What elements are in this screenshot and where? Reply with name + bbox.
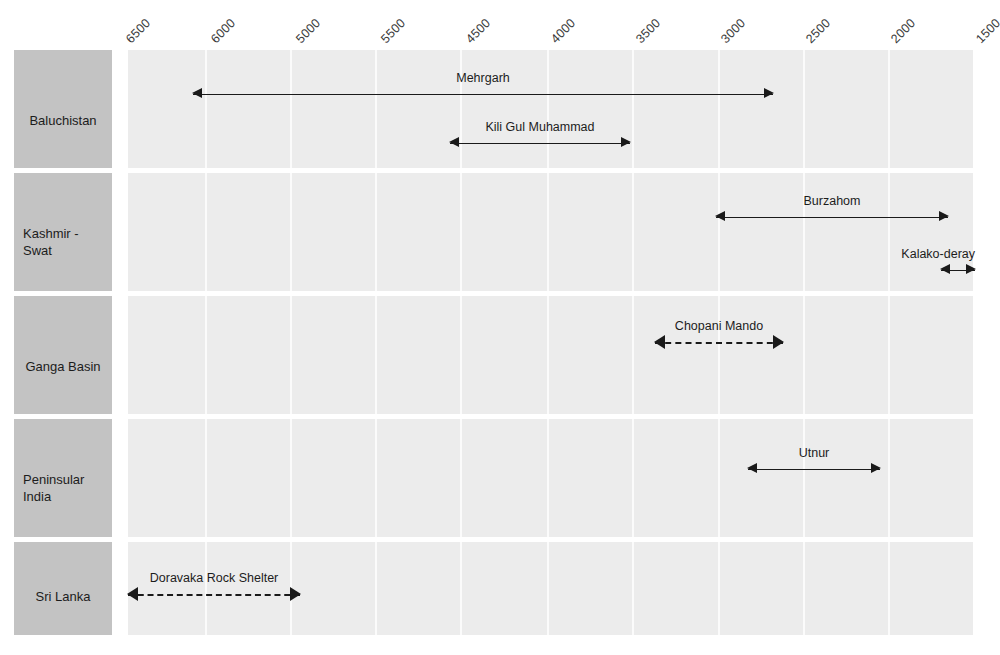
grid-divider: [290, 173, 292, 291]
grid-divider: [718, 296, 720, 414]
range-label: Kili Gul Muhammad: [485, 120, 594, 134]
arrow-left-icon: [449, 137, 459, 147]
row-label-box-kashmir-swat: Kashmir -Swat: [14, 173, 112, 291]
row-label-text: Sri Lanka: [14, 589, 112, 606]
axis-tick-label: 2000: [888, 16, 918, 46]
row-label-line: Kashmir -: [23, 226, 106, 243]
grid-divider: [375, 419, 377, 537]
grid-divider: [375, 173, 377, 291]
grid-divider: [205, 50, 207, 168]
range-bar[interactable]: Kili Gul Muhammad: [450, 133, 630, 155]
grid-divider: [888, 419, 890, 537]
grid-divider: [632, 542, 634, 635]
range-line: [450, 143, 630, 144]
axis-tick-label: 4500: [463, 16, 493, 46]
arrow-right-icon: [621, 137, 631, 147]
grid-divider: [547, 419, 549, 537]
row-label-line: Baluchistan: [14, 113, 112, 130]
grid-divider: [888, 296, 890, 414]
axis-tick-label: 4000: [548, 16, 578, 46]
grid-divider: [205, 419, 207, 537]
arrow-left-icon: [127, 587, 138, 601]
plot-row-ganga-basin: Chopani Mando: [128, 296, 973, 414]
grid-divider: [803, 296, 805, 414]
row-label-text: Ganga Basin: [14, 359, 112, 376]
grid-divider: [888, 542, 890, 635]
grid-divider: [632, 419, 634, 537]
grid-divider: [205, 173, 207, 291]
grid-divider: [460, 419, 462, 537]
grid-divider: [547, 296, 549, 414]
range-line: [655, 342, 783, 344]
arrow-right-icon: [764, 88, 774, 98]
arrow-right-icon: [290, 587, 301, 601]
grid-divider: [290, 419, 292, 537]
row-label-line: Swat: [23, 243, 106, 260]
arrow-right-icon: [966, 264, 976, 274]
plot-row-baluchistan: MehrgarhKili Gul Muhammad: [128, 50, 973, 168]
range-label: Doravaka Rock Shelter: [150, 571, 279, 585]
grid-divider: [205, 296, 207, 414]
grid-divider: [547, 173, 549, 291]
range-bar[interactable]: Kalako-deray: [941, 260, 975, 282]
grid-divider: [290, 50, 292, 168]
range-label: Mehrgarh: [456, 71, 510, 85]
grid-divider: [632, 50, 634, 168]
grid-divider: [803, 50, 805, 168]
axis-tick-label: 3500: [633, 16, 663, 46]
grid-divider: [718, 542, 720, 635]
grid-divider: [290, 296, 292, 414]
grid-divider: [718, 50, 720, 168]
plot-row-sri-lanka: Doravaka Rock Shelter: [128, 542, 973, 635]
grid-divider: [375, 50, 377, 168]
range-label: Burzahom: [804, 194, 861, 208]
grid-divider: [888, 173, 890, 291]
row-label-line: Sri Lanka: [14, 589, 112, 606]
row-label-text: PeninsularIndia: [23, 472, 106, 505]
plot-row-kashmir-swat: BurzahomKalako-deray: [128, 173, 973, 291]
grid-divider: [460, 296, 462, 414]
x-axis-tick-labels: 6500600050005500450040003500300025002000…: [0, 0, 1000, 46]
range-bar[interactable]: Doravaka Rock Shelter: [128, 584, 300, 606]
grid-divider: [375, 542, 377, 635]
arrow-left-icon: [654, 335, 665, 349]
range-line: [128, 594, 300, 596]
range-bar[interactable]: Utnur: [748, 459, 880, 481]
plot-row-peninsular-india: Utnur: [128, 419, 973, 537]
arrow-left-icon: [940, 264, 950, 274]
row-label-box-sri-lanka: Sri Lanka: [14, 542, 112, 635]
range-line: [748, 469, 880, 470]
axis-tick-label: 3000: [718, 16, 748, 46]
arrow-left-icon: [747, 463, 757, 473]
grid-divider: [547, 542, 549, 635]
axis-tick-label: 1500: [973, 16, 1000, 46]
grid-divider: [803, 173, 805, 291]
arrow-left-icon: [715, 211, 725, 221]
grid-divider: [718, 173, 720, 291]
row-label-line: Ganga Basin: [14, 359, 112, 376]
row-label-box-baluchistan: Baluchistan: [14, 50, 112, 168]
row-label-text: Kashmir -Swat: [23, 226, 106, 259]
axis-tick-label: 6500: [123, 16, 153, 46]
grid-divider: [718, 419, 720, 537]
row-label-box-peninsular-india: PeninsularIndia: [14, 419, 112, 537]
range-bar[interactable]: Chopani Mando: [655, 332, 783, 354]
timeline-chart: 6500600050005500450040003500300025002000…: [0, 0, 1000, 655]
range-bar[interactable]: Mehrgarh: [193, 84, 773, 106]
arrow-right-icon: [939, 211, 949, 221]
arrow-right-icon: [773, 335, 784, 349]
row-label-text: Baluchistan: [14, 113, 112, 130]
row-label-box-ganga-basin: Ganga Basin: [14, 296, 112, 414]
range-label: Kalako-deray: [901, 247, 975, 261]
grid-divider: [460, 542, 462, 635]
grid-divider: [632, 173, 634, 291]
arrow-left-icon: [192, 88, 202, 98]
axis-tick-label: 5000: [293, 16, 323, 46]
grid-divider: [460, 173, 462, 291]
range-label: Utnur: [799, 446, 830, 460]
axis-tick-label: 6000: [208, 16, 238, 46]
axis-tick-label: 5500: [378, 16, 408, 46]
row-label-line: India: [23, 489, 106, 506]
range-label: Chopani Mando: [675, 319, 763, 333]
range-bar[interactable]: Burzahom: [716, 207, 948, 229]
